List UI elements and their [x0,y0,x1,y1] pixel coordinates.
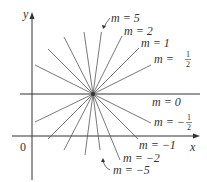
line-m-half-lower [35,94,93,122]
label-m-half-den: 2 [186,60,190,69]
y-axis-label: y [22,7,29,21]
line-m-half [93,65,151,94]
x-axis-arrow-icon [193,134,200,139]
label-m-half-num: 1 [186,50,190,59]
label-m-half: m = [154,52,174,66]
label-m-0: m = 0 [152,95,181,109]
line-m-2 [93,36,122,94]
label-m-neg-half-den: 2 [187,123,191,132]
diagram-canvas: y x 0 m = 5 m = 2 m = 1 m = 1 2 m = 0 m … [0,0,207,182]
label-m-neg-half-num: 1 [187,113,191,122]
center-point [91,92,95,96]
line-m-5-lower-left [85,94,93,155]
origin-label: 0 [20,140,26,154]
label-m-1: m = 1 [141,36,170,50]
slope-family-diagram: y x 0 m = 5 m = 2 m = 1 m = 1 2 m = 0 m … [0,0,207,182]
label-m-neg-5: m = −5 [113,163,150,177]
label-m-neg-1: m = −1 [139,138,176,152]
line-m-1 [93,48,139,94]
line-m-neg-1-lower [93,94,138,139]
pointer-arrowhead-icon [102,25,106,29]
line-m-1-lower [48,94,93,139]
label-m-neg-half: m = − [154,115,185,129]
label-m-5: m = 5 [111,11,140,25]
line-m-5 [93,32,101,94]
y-axis-arrow-icon [30,12,35,19]
pointer-arrowhead-icon [101,158,105,162]
line-m-neg-half [35,65,93,94]
line-m-neg-1 [48,49,93,94]
line-m-2-lower [64,94,93,150]
x-axis-label: x [189,140,196,154]
line-m-neg-half-lower [93,94,151,123]
